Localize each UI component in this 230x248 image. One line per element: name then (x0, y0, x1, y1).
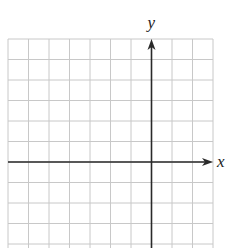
coordinate-grid: x y (0, 0, 230, 248)
grid-lines (8, 39, 213, 248)
x-axis-label: x (216, 152, 225, 171)
y-axis-label: y (146, 13, 156, 32)
